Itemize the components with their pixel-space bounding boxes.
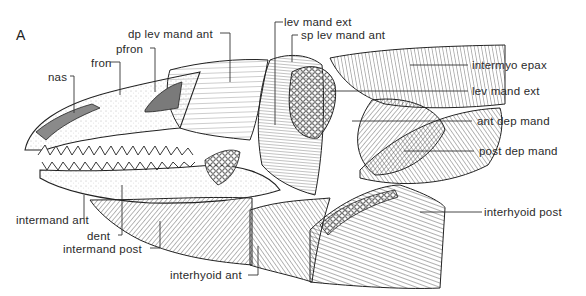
epaxial-muscle (330, 45, 505, 108)
label-sp-lev-mand-ant: sp lev mand ant (301, 29, 385, 41)
label-dp-lev-mand-ant: dp lev mand ant (128, 28, 213, 40)
label-interhyoid-post: interhyoid post (484, 206, 562, 218)
label-pfron: pfron (116, 43, 143, 55)
label-interhyoid-ant: interhyoid ant (170, 269, 242, 281)
skull-snout (25, 72, 200, 150)
label-intermand-post: intermand post (63, 243, 142, 255)
sp-lev-mand-ant-muscle (289, 67, 335, 139)
label-fron: fron (91, 57, 112, 69)
label-nas: nas (48, 71, 67, 83)
label-post-dep-mand: post dep mand (479, 145, 558, 157)
label-lev-mand-ext-top: lev mand ext (284, 16, 352, 28)
label-ant-dep-mand: ant dep mand (477, 115, 550, 127)
upper-teeth (38, 145, 193, 155)
label-lev-mand-ext-right: lev mand ext (472, 85, 540, 97)
label-intermand-ant: intermand ant (16, 214, 89, 226)
label-dent: dent (87, 230, 110, 242)
dentary-bone (40, 165, 280, 203)
panel-label: A (16, 27, 25, 43)
label-intermyo-epax: intermyo epax (472, 59, 547, 71)
